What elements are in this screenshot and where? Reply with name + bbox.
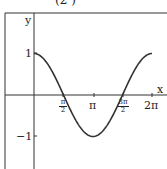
x-tick-two-pi: 2π — [144, 100, 158, 111]
x-tick-pi: π — [89, 100, 96, 111]
y-tick-neg1: −1 — [16, 131, 32, 142]
x-axis-label: x — [157, 84, 163, 95]
x-tick-three-pi-half: 3π 2 — [116, 99, 130, 114]
y-tick-1: 1 — [25, 48, 32, 59]
x-tick-pi-half: π 2 — [58, 99, 68, 114]
y-axis-label: y — [25, 15, 31, 26]
